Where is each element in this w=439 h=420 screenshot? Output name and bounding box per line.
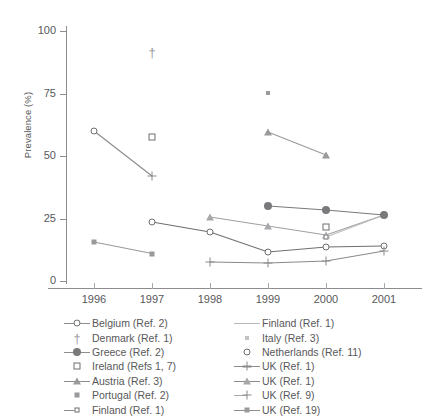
legend-item-uk-ref9: UK (Ref. 9) [232,388,432,402]
x-tick-1996 [94,283,95,289]
y-tick-100 [60,31,67,32]
point-uk-ref9-2000 [322,257,331,266]
legend-item-finland-right: Finland (Ref. 1) [232,316,432,330]
chart-page: 100 75 50 25 0 Prevalence (%) 1996 1997 … [0,0,439,420]
y-tick-25 [60,219,67,220]
open-circle-icon [232,345,262,359]
point-belgium-1997 [148,172,157,181]
legend-label-netherlands: Netherlands (Ref. 11) [262,346,362,358]
point-denmark-1997: † [148,46,155,59]
point-portugal-1997 [150,251,155,256]
x-axis-label-1999: 1999 [244,293,292,305]
x-axis-label-1997: 1997 [128,293,176,305]
x-axis-label-1998: 1998 [186,293,234,305]
filled-square-small-icon [232,331,262,345]
legend-item-uk-ref19: UK (Ref. 19) [232,402,432,416]
filled-square-icon [62,388,92,402]
legend-column-left: Belgium (Ref. 2) † Denmark (Ref. 1) Gree… [62,316,242,417]
legend-label-austria: Austria (Ref. 3) [92,375,163,387]
plus-filled-line-icon [232,359,262,373]
y-tick-75 [60,94,67,95]
y-axis-line [66,26,67,284]
legend-label-denmark: Denmark (Ref. 1) [92,332,173,344]
filled-circle-line-icon [62,345,92,359]
x-axis-label-2001: 2001 [360,293,408,305]
point-greece-1999 [264,202,272,210]
y-axis-title: Prevalence (%) [23,65,33,185]
legend-item-denmark: † Denmark (Ref. 1) [62,330,242,344]
legend-label-ireland: Ireland (Refs 1, 7) [92,360,176,372]
point-netherlands-1999 [265,249,272,256]
legend-label-portugal: Portugal (Ref. 2) [92,389,169,401]
legend-item-austria: Austria (Ref. 3) [62,374,242,388]
legend-item-netherlands: Netherlands (Ref. 11) [232,345,432,359]
prevalence-line-chart: 100 75 50 25 0 Prevalence (%) 1996 1997 … [0,0,439,310]
point-greece-2000 [322,206,330,214]
x-tick-2000 [326,283,327,289]
x-axis-label-1996: 1996 [70,293,118,305]
y-tick-0 [60,281,67,282]
point-netherlands-2000 [323,244,330,251]
y-axis-label-0: 0 [28,275,56,286]
point-netherlands-1997 [149,219,156,226]
legend-item-portugal: Portugal (Ref. 2) [62,388,242,402]
point-greece-2001 [380,211,388,219]
legend-item-ireland: Ireland (Refs 1, 7) [62,359,242,373]
legend-item-finland-left: Finland (Ref. 1) [62,402,242,416]
point-uk-ref9-1998 [206,258,215,267]
chart-legend: Belgium (Ref. 2) † Denmark (Ref. 1) Gree… [0,316,439,420]
point-netherlands-1998 [207,229,214,236]
x-tick-1999 [268,283,269,289]
legend-item-belgium: Belgium (Ref. 2) [62,316,242,330]
legend-column-right: Finland (Ref. 1) Italy (Ref. 3) Netherla… [232,316,432,417]
legend-label-uk-ref19: UK (Ref. 19) [262,404,320,416]
x-tick-1997 [152,283,153,289]
point-austria-1999 [264,129,272,136]
legend-label-belgium: Belgium (Ref. 2) [92,317,168,329]
legend-item-italy: Italy (Ref. 3) [232,330,432,344]
legend-item-uk-ref1-triangle: UK (Ref. 1) [232,374,432,388]
open-square-line-icon [62,403,92,417]
legend-item-uk-ref1-plus: UK (Ref. 1) [232,359,432,373]
open-triangle-line-icon [232,374,262,388]
dagger-icon: † [62,331,92,345]
point-uk-ref9-1999 [264,259,273,268]
point-ireland-1997 [149,134,156,141]
point-italy-1999 [266,91,270,95]
legend-label-uk-ref1-plus: UK (Ref. 1) [262,360,315,372]
point-finland-2000 [324,235,329,240]
line-only-icon [232,316,262,330]
point-belgium-1996 [91,128,98,135]
point-uk-ref9-2001 [380,247,389,256]
y-axis-label-100: 100 [28,25,56,36]
legend-label-uk-ref1-triangle: UK (Ref. 1) [262,375,315,387]
point-uk-ref1-tri-1998 [206,214,214,221]
legend-label-italy: Italy (Ref. 3) [262,332,319,344]
point-portugal-1996 [92,240,97,245]
x-axis-label-2000: 2000 [302,293,350,305]
filled-square-line-icon [232,403,262,417]
x-tick-2001 [384,283,385,289]
legend-label-finland-left: Finland (Ref. 1) [92,404,164,416]
x-axis-line [48,288,422,289]
point-uk-ref1-tri-1999 [264,223,272,230]
legend-label-greece: Greece (Ref. 2) [92,346,164,358]
point-ireland-2000 [323,224,330,231]
y-tick-50 [60,156,67,157]
y-axis-label-25: 25 [28,213,56,224]
open-circle-line-icon [62,316,92,330]
plus-line-icon [232,388,262,402]
point-austria-2000 [322,152,330,159]
legend-label-uk-ref9: UK (Ref. 9) [262,389,315,401]
legend-label-finland-right: Finland (Ref. 1) [262,317,334,329]
open-square-icon [62,359,92,373]
x-tick-1998 [210,283,211,289]
legend-item-greece: Greece (Ref. 2) [62,345,242,359]
filled-triangle-line-icon [62,374,92,388]
